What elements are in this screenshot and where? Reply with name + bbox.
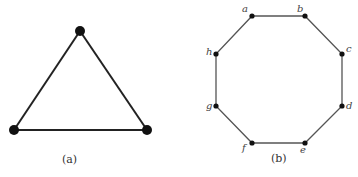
vertex-label-g: g — [206, 100, 212, 111]
triangle-graph — [9, 26, 152, 135]
vertex-label-e: e — [300, 144, 306, 155]
vertex-g — [213, 103, 218, 108]
vertex-label-h: h — [206, 46, 212, 57]
vertex-label-a: a — [242, 3, 248, 14]
vertex-label-f: f — [242, 142, 246, 153]
vertex-f — [249, 140, 254, 145]
caption-a: (a) — [62, 153, 77, 166]
vertex-c — [339, 51, 344, 56]
vertex-top — [75, 26, 85, 36]
vertex-h — [213, 51, 218, 56]
vertex-d — [339, 103, 344, 108]
vertex-bottom-left — [9, 125, 19, 135]
octagon-cycle — [216, 16, 342, 143]
octagon-graph — [213, 13, 344, 145]
vertex-label-d: d — [346, 100, 352, 111]
vertex-a — [249, 13, 254, 18]
vertex-label-b: b — [297, 3, 303, 14]
vertex-bottom-right — [142, 125, 152, 135]
vertex-b — [302, 13, 307, 18]
edge-bottom-right-top — [80, 31, 147, 130]
caption-b: (b) — [271, 152, 287, 165]
vertex-label-c: c — [346, 43, 352, 54]
edge-top-bottom-left — [14, 31, 80, 130]
